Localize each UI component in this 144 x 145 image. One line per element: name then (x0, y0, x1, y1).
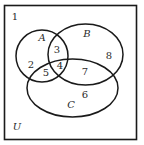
set-c-label: C (67, 100, 75, 110)
region-2-label: 2 (28, 60, 34, 70)
region-1-label: 1 (12, 12, 18, 22)
region-8-label: 8 (106, 51, 112, 61)
universe-label: U (13, 122, 21, 132)
region-4-label: 4 (57, 61, 63, 71)
set-a-label: A (38, 33, 45, 43)
set-b-label: B (83, 29, 90, 39)
venn-diagram (0, 0, 144, 145)
region-3-label: 3 (54, 45, 60, 55)
region-6-label: 6 (82, 90, 88, 100)
region-7-label: 7 (82, 67, 88, 77)
region-5-label: 5 (43, 68, 49, 78)
